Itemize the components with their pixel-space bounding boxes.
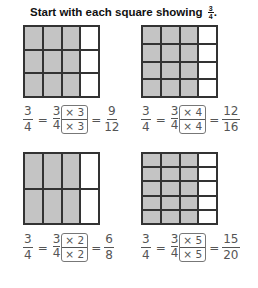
shaded-cell <box>180 44 199 62</box>
mult-top: × 5 <box>180 234 205 248</box>
num: 3 <box>23 233 33 248</box>
den: 4 <box>142 120 150 134</box>
equals-sign: = <box>38 113 48 127</box>
page-title: Start with each square showing 34. <box>30 5 217 20</box>
mult-bot: × 3 <box>62 120 87 133</box>
shaded-cell <box>142 26 161 44</box>
fraction-result: 68 <box>104 233 114 262</box>
num: 3 <box>53 105 61 119</box>
unshaded-cell <box>80 153 99 189</box>
unshaded-cell <box>80 26 99 50</box>
den: 4 <box>171 247 179 260</box>
shaded-cell <box>62 73 81 97</box>
base-fraction: 34 <box>53 105 61 134</box>
multiplier-box: × 5× 5 <box>179 233 206 262</box>
shaded-cell <box>43 189 62 225</box>
shaded-cell <box>24 26 43 50</box>
mult-top: × 4 <box>180 106 205 120</box>
shaded-cell <box>24 189 43 225</box>
fraction-grid-quarters <box>141 25 218 98</box>
equals-sign: = <box>38 241 48 255</box>
shaded-cell <box>180 79 199 97</box>
mult-top: × 2 <box>62 234 87 248</box>
shaded-cell <box>161 153 180 167</box>
shaded-cell <box>62 50 81 74</box>
den: 8 <box>105 248 113 262</box>
unshaded-cell <box>80 73 99 97</box>
fraction-left: 34 <box>23 105 33 134</box>
shaded-cell <box>161 79 180 97</box>
shaded-cell <box>142 181 161 195</box>
shaded-cell <box>161 26 180 44</box>
num: 3 <box>141 105 151 120</box>
shaded-cell <box>180 62 199 80</box>
base-fraction: 34 <box>171 233 179 262</box>
num: 3 <box>171 105 179 119</box>
multiplier-box: × 2× 2 <box>61 233 88 262</box>
shaded-cell <box>161 167 180 181</box>
den: 4 <box>24 248 32 262</box>
unshaded-cell <box>198 196 217 210</box>
fraction-result: 1216 <box>222 105 239 134</box>
equation-2: 34 = 34 × 4× 4 = 1216 <box>141 105 240 134</box>
num: 3 <box>23 105 33 120</box>
equals-sign: = <box>209 241 219 255</box>
unshaded-cell <box>80 189 99 225</box>
equals-sign: = <box>91 113 101 127</box>
equation-3: 34 = 34 × 2× 2 = 68 <box>23 233 114 262</box>
num: 6 <box>104 233 114 248</box>
fraction-left: 34 <box>23 233 33 262</box>
mult-bot: × 4 <box>180 120 205 133</box>
title-text: Start with each square showing <box>30 6 203 18</box>
shaded-cell <box>43 50 62 74</box>
shaded-cell <box>161 62 180 80</box>
unshaded-cell <box>198 44 217 62</box>
unshaded-cell <box>198 153 217 167</box>
num: 12 <box>222 105 239 120</box>
fraction-left: 34 <box>141 233 151 262</box>
fraction-grid-fifths <box>141 152 218 225</box>
unshaded-cell <box>198 26 217 44</box>
den: 16 <box>223 120 238 134</box>
shaded-cell <box>62 189 81 225</box>
shaded-cell <box>43 26 62 50</box>
mult-bot: × 2 <box>62 248 87 261</box>
shaded-cell <box>142 62 161 80</box>
shaded-cell <box>180 196 199 210</box>
shaded-cell <box>142 196 161 210</box>
equation-1: 34 = 34 × 3× 3 = 912 <box>23 105 120 134</box>
equals-sign: = <box>209 113 219 127</box>
shaded-cell <box>161 181 180 195</box>
shaded-cell <box>142 210 161 224</box>
mult-top: × 3 <box>62 106 87 120</box>
base-fraction: 34 <box>53 233 61 262</box>
shaded-cell <box>161 210 180 224</box>
fraction-result: 912 <box>104 105 119 134</box>
shaded-cell <box>24 153 43 189</box>
multiplied-fraction: 34 × 3× 3 <box>53 105 88 134</box>
equals-sign: = <box>156 113 166 127</box>
multiplier-box: × 4× 4 <box>179 105 206 134</box>
shaded-cell <box>180 210 199 224</box>
shaded-cell <box>142 44 161 62</box>
num: 3 <box>171 233 179 247</box>
num: 15 <box>222 233 239 248</box>
base-fraction: 34 <box>171 105 179 134</box>
title-period: . <box>214 6 217 18</box>
equals-sign: = <box>91 241 101 255</box>
shaded-cell <box>62 153 81 189</box>
shaded-cell <box>142 153 161 167</box>
multiplier-box: × 3× 3 <box>61 105 88 134</box>
shaded-cell <box>142 167 161 181</box>
shaded-cell <box>180 26 199 44</box>
den: 4 <box>24 120 32 134</box>
unshaded-cell <box>80 50 99 74</box>
den: 12 <box>104 120 119 134</box>
num: 3 <box>141 233 151 248</box>
den: 4 <box>171 119 179 132</box>
den: 4 <box>53 119 61 132</box>
equation-4: 34 = 34 × 5× 5 = 1520 <box>141 233 240 262</box>
shaded-cell <box>180 167 199 181</box>
unshaded-cell <box>198 210 217 224</box>
den: 20 <box>223 248 238 262</box>
